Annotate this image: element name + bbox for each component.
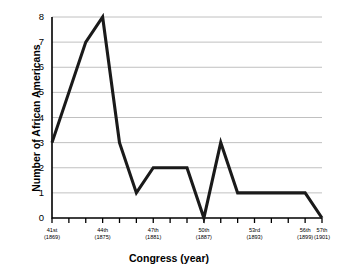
- y-tick-label: 7: [22, 37, 44, 47]
- y-tick-label: 2: [22, 163, 44, 173]
- chart-container: Number of African Americans 012345678 41…: [0, 0, 338, 274]
- x-tick-label-group: 53rd(1893): [232, 227, 278, 241]
- x-tick-year: (1893): [232, 234, 278, 241]
- x-tick-label-group: 47th(1881): [130, 227, 176, 241]
- x-tick-label-group: 41st(1869): [29, 227, 75, 241]
- x-tick-year: (1875): [80, 234, 126, 241]
- y-tick-label: 8: [22, 12, 44, 22]
- x-tick-year: (1901): [299, 234, 338, 241]
- y-tick-label: 1: [22, 188, 44, 198]
- x-tick-congress: 47th: [148, 227, 159, 233]
- y-tick-label: 4: [22, 113, 44, 123]
- x-tick-label-group: 50th(1887): [181, 227, 227, 241]
- x-axis-title: Congress (year): [0, 252, 338, 264]
- x-tick-year: (1887): [181, 234, 227, 241]
- x-tick-congress: 41st: [47, 227, 58, 233]
- y-tick-label: 5: [22, 87, 44, 97]
- gridlines: [52, 17, 322, 218]
- x-tick-congress: 44th: [97, 227, 108, 233]
- y-tick-label: 6: [22, 62, 44, 72]
- y-tick-label: 3: [22, 138, 44, 148]
- x-tick-congress: 53rd: [249, 227, 260, 233]
- x-tick-label-group: 44th(1875): [80, 227, 126, 241]
- x-tick-congress: 57th: [317, 227, 328, 233]
- x-tick-label-group: 57th(1901): [299, 227, 338, 241]
- x-tick-year: (1869): [29, 234, 75, 241]
- x-tick-year: (1881): [130, 234, 176, 241]
- x-tick-congress: 50th: [198, 227, 209, 233]
- y-tick-label: 0: [22, 213, 44, 223]
